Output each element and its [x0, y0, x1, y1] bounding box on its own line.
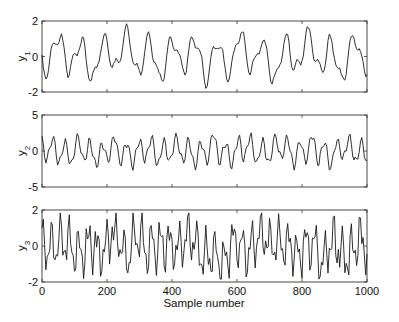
y-tick-label: -2 [28, 276, 38, 288]
y-tick-label: 0 [32, 145, 38, 157]
y-axis-label: y3 [15, 240, 32, 251]
y-tick-label: 0 [32, 240, 38, 252]
x-tick-label: 0 [39, 285, 45, 297]
y-tick-label: -5 [28, 181, 38, 193]
x-tick-label: 200 [98, 285, 116, 297]
subplot-3: -202y3 [15, 204, 367, 288]
signal-trace [42, 24, 367, 89]
y-tick-label: 0 [32, 51, 38, 63]
stacked-line-chart: -202y1-505y2-202y3 02004006008001000 Sam… [0, 0, 399, 322]
y-tick-label: 2 [32, 15, 38, 27]
x-tick-label: 600 [228, 285, 246, 297]
x-tick-label: 1000 [355, 285, 379, 297]
x-axis-label: Sample number [163, 297, 244, 309]
signal-trace [42, 213, 367, 279]
x-tick-label: 800 [293, 285, 311, 297]
subplot-2: -505y2 [15, 109, 367, 193]
signal-trace [42, 133, 367, 170]
y-tick-label: 2 [32, 204, 38, 216]
y-axis-label: y1 [15, 51, 32, 62]
y-tick-label: 5 [32, 109, 38, 121]
y-axis-label: y2 [15, 145, 32, 156]
subplot-1: -202y1 [15, 15, 367, 98]
x-tick-label: 400 [163, 285, 181, 297]
y-tick-label: -2 [28, 86, 38, 98]
